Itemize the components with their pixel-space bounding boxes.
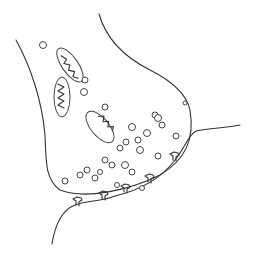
mitochondrion (81, 107, 119, 148)
vesicle (122, 162, 129, 169)
synapse-diagram (0, 0, 269, 267)
vesicle (123, 139, 129, 145)
vesicle (81, 89, 88, 96)
mitochondrion (54, 77, 70, 117)
vesicle (82, 77, 88, 83)
vesicle (129, 124, 136, 131)
vesicle (62, 178, 68, 184)
vesicle (102, 157, 108, 163)
vesicle (77, 172, 83, 178)
vesicle (117, 145, 123, 151)
vesicle (155, 115, 162, 122)
vesicle (183, 101, 187, 105)
vesicle (40, 42, 47, 49)
vesicle (98, 170, 103, 175)
vesicle (140, 186, 145, 191)
vesicle (115, 183, 120, 188)
vesicle (137, 147, 144, 154)
receptors (73, 152, 179, 206)
vesicle (159, 122, 165, 128)
vesicle (129, 169, 135, 175)
vesicle (109, 162, 115, 168)
postsynaptic-membrane (52, 125, 240, 244)
vesicle (84, 167, 90, 173)
vesicle (92, 175, 98, 181)
vesicle (144, 130, 151, 137)
vesicle (135, 137, 141, 143)
vesicle (173, 133, 179, 139)
vesicle (102, 104, 108, 110)
receptor (170, 152, 179, 161)
vesicle (155, 153, 161, 159)
